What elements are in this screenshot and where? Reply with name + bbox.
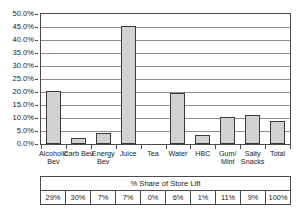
bar bbox=[121, 26, 136, 144]
bar-slot bbox=[265, 14, 290, 144]
bar bbox=[195, 135, 210, 144]
y-axis-tick-label: 20.0% bbox=[12, 88, 34, 96]
y-axis-tick-mark bbox=[35, 14, 38, 15]
x-axis-tick-mark bbox=[265, 145, 266, 149]
table-cell: 7% bbox=[116, 191, 141, 204]
table-cell: 0% bbox=[141, 191, 166, 204]
bar-slot bbox=[240, 14, 265, 144]
y-axis-tick-mark bbox=[35, 79, 38, 80]
x-axis-tick-mark bbox=[190, 145, 191, 149]
y-axis-tick-mark bbox=[35, 53, 38, 54]
bar-slot bbox=[215, 14, 240, 144]
y-axis: 50.0%45.0%40.0%35.0%30.0%25.0%20.0%15.0%… bbox=[0, 13, 38, 145]
y-axis-tick-mark bbox=[35, 66, 38, 67]
y-axis-tick-label: 5.0% bbox=[17, 127, 34, 135]
y-axis-tick-label: 35.0% bbox=[12, 49, 34, 57]
y-axis-tick-label: 40.0% bbox=[12, 36, 34, 44]
y-axis-tick-mark bbox=[35, 105, 38, 106]
x-axis-tick-mark bbox=[166, 145, 167, 149]
bar bbox=[220, 117, 235, 144]
bar-slot bbox=[66, 14, 91, 144]
x-axis-tick-mark bbox=[290, 145, 291, 149]
table-cell: 7% bbox=[91, 191, 116, 204]
bar-slot bbox=[116, 14, 141, 144]
bar bbox=[245, 115, 260, 144]
bar-slot bbox=[190, 14, 215, 144]
x-axis-labels: Alcoholic BevCarb BevEnergy BevJuiceTeaW… bbox=[40, 150, 291, 170]
bar bbox=[96, 133, 111, 144]
x-axis-tick-mark bbox=[215, 145, 216, 149]
x-axis-tick-mark bbox=[141, 145, 142, 149]
table-cell: 9% bbox=[241, 191, 266, 204]
table-cell: 6% bbox=[166, 191, 191, 204]
bar bbox=[270, 121, 285, 144]
y-axis-tick-label: 45.0% bbox=[12, 23, 34, 31]
x-axis-tick-mark bbox=[116, 145, 117, 149]
y-axis-tick-label: 30.0% bbox=[12, 62, 34, 70]
bar-slot bbox=[91, 14, 116, 144]
bar-slot bbox=[41, 14, 66, 144]
table-header-label: % Share of Store Lift bbox=[41, 177, 290, 191]
share-of-store-lift-table: % Share of Store Lift 29%30%7%7%0%6%1%11… bbox=[40, 176, 291, 205]
bar-chart: · · · · · · · 50.0%45.0%40.0%35.0%30.0%2… bbox=[0, 0, 300, 211]
y-axis-tick-label: 50.0% bbox=[12, 10, 34, 18]
y-axis-tick-mark bbox=[35, 144, 38, 145]
table-cell: 100% bbox=[266, 191, 290, 204]
y-axis-tick-mark bbox=[35, 27, 38, 28]
y-axis-tick-label: 10.0% bbox=[12, 114, 34, 122]
cropped-chart-title: · · · · · · · bbox=[62, 0, 238, 2]
y-axis-tick-mark bbox=[35, 118, 38, 119]
y-axis-tick-label: 25.0% bbox=[12, 75, 34, 83]
x-axis-label: Total bbox=[262, 150, 293, 158]
table-cell: 30% bbox=[66, 191, 91, 204]
bar bbox=[46, 91, 61, 144]
y-axis-tick-label: 15.0% bbox=[12, 101, 34, 109]
x-axis-tick-mark bbox=[240, 145, 241, 149]
bar-slot bbox=[141, 14, 166, 144]
table-cell: 29% bbox=[41, 191, 66, 204]
bar bbox=[170, 93, 185, 144]
y-axis-tick-mark bbox=[35, 92, 38, 93]
bar bbox=[71, 138, 86, 144]
y-axis-tick-mark bbox=[35, 131, 38, 132]
table-cell: 1% bbox=[191, 191, 216, 204]
table-row: 29%30%7%7%0%6%1%11%9%100% bbox=[41, 191, 290, 204]
y-axis-tick-mark bbox=[35, 40, 38, 41]
y-axis-tick-label: 0.0% bbox=[17, 140, 34, 148]
bar-slot bbox=[166, 14, 191, 144]
bar-series bbox=[41, 14, 290, 144]
table-cell: 11% bbox=[216, 191, 241, 204]
